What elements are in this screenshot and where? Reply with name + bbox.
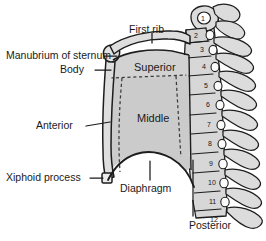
vertebra-number-1: 1 [201, 15, 205, 22]
vertebra-number-6: 6 [206, 101, 210, 108]
spinous-process-5 [219, 71, 255, 91]
vertebra-number-4: 4 [202, 63, 206, 70]
vertebra-number-11: 11 [209, 198, 216, 205]
spinous-process-8 [223, 130, 258, 150]
costal-facet-9 [219, 159, 227, 169]
costal-facet-6 [216, 100, 224, 109]
costal-facet-4 [211, 62, 219, 71]
label-diaphragm: Diaphragm [120, 183, 171, 194]
costal-facet-10 [220, 178, 228, 188]
spinous-process-7 [222, 110, 257, 130]
label-manubrium-of-sternum: Manubrium of sternum [6, 50, 111, 61]
spinous-process-10 [225, 169, 260, 189]
vertebra-number-9: 9 [209, 160, 213, 167]
spinous-process-12 [227, 207, 262, 228]
costal-facet-3 [209, 45, 217, 54]
label-xiphoid-process: Xiphoid process [6, 172, 81, 183]
vertebra-number-2: 2 [194, 32, 198, 39]
spinous-process-9 [224, 149, 259, 169]
label-middle-region: Middle [137, 113, 169, 124]
vertebra-number-8: 8 [208, 140, 212, 147]
spinous-process-6 [221, 90, 256, 110]
vertebra-number-12: 12 [210, 216, 218, 223]
costal-facet-2 [206, 30, 214, 39]
label-body: Body [60, 64, 84, 75]
spinous-process-11 [226, 188, 261, 208]
thorax-regions-figure: First rib Manubrium of sternum Body Ante… [0, 0, 266, 241]
vertebra-number-3: 3 [200, 46, 204, 53]
costal-facet-5 [214, 81, 222, 90]
label-first-rib: First rib [129, 24, 164, 35]
costal-facet-8 [218, 139, 226, 148]
label-anterior: Anterior [36, 120, 73, 131]
label-superior-region: Superior [134, 62, 176, 73]
vertebra-number-7: 7 [207, 121, 211, 128]
costal-facet-7 [217, 120, 225, 129]
upper-spinous-process-b [216, 21, 245, 39]
vertebra-number-5: 5 [204, 82, 208, 89]
vertebra-number-10: 10 [208, 179, 216, 186]
costal-facet-11 [221, 197, 229, 207]
